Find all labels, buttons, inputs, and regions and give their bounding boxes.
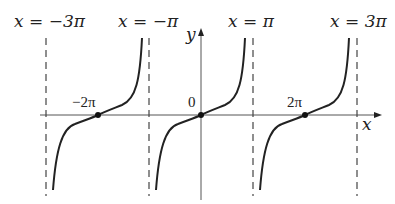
function-graph: x = −3π x = −π x = π x = 3π y x −2π 0 2π [0, 0, 395, 204]
asymptote-label-neg-pi: x = −π [118, 11, 179, 31]
asymptote-label-neg-3pi: x = −3π [14, 11, 86, 31]
point-label-neg-2pi: −2π [72, 94, 96, 110]
point-label-2pi: 2π [287, 94, 303, 110]
point-2pi [302, 112, 308, 118]
asymptote-label-pi: x = π [228, 11, 275, 31]
x-axis-label: x [362, 114, 372, 134]
asymptote-label-3pi: x = 3π [330, 11, 387, 31]
point-neg-2pi [95, 112, 101, 118]
point-origin [198, 112, 204, 118]
y-axis-label: y [185, 24, 196, 44]
point-label-origin: 0 [188, 94, 196, 110]
